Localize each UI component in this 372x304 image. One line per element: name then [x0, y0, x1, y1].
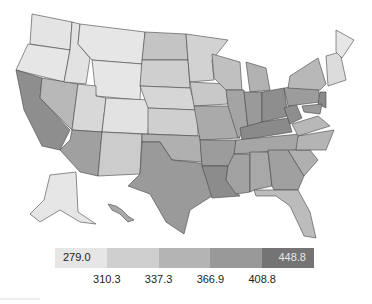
state-nebraska [140, 86, 196, 110]
legend-color-bar: 279.0 448.8 [55, 248, 314, 268]
state-hawaii [108, 204, 134, 222]
state-washington [30, 14, 72, 50]
state-maine [336, 30, 354, 58]
state-south-dakota [140, 60, 190, 88]
legend-break-1: 310.3 [93, 273, 121, 285]
us-choropleth-map [0, 0, 372, 240]
legend-max-label: 448.8 [278, 251, 306, 263]
bottom-edge-artifact [0, 298, 40, 300]
state-new-england [326, 52, 346, 86]
state-maryland [302, 104, 322, 114]
state-north-dakota [142, 32, 188, 60]
state-new-mexico [98, 132, 142, 176]
state-colorado [102, 98, 150, 134]
legend-min-label: 279.0 [63, 251, 91, 263]
legend-break-2: 337.3 [145, 273, 173, 285]
state-ohio [262, 88, 288, 122]
legend-bin-4 [210, 248, 262, 268]
legend-break-3: 366.9 [197, 273, 225, 285]
legend-break-4: 408.8 [248, 273, 276, 285]
state-alaska [30, 172, 96, 224]
state-florida [254, 190, 316, 238]
state-michigan [246, 62, 270, 92]
legend-bin-5: 448.8 [262, 248, 314, 268]
legend-bin-3 [159, 248, 211, 268]
legend-bin-2 [107, 248, 159, 268]
state-wyoming [92, 60, 142, 100]
state-kansas [148, 108, 198, 136]
state-new-york [288, 58, 326, 90]
legend-breaks: 310.3 337.3 366.9 408.8 [55, 273, 314, 287]
legend-bin-1: 279.0 [55, 248, 107, 268]
